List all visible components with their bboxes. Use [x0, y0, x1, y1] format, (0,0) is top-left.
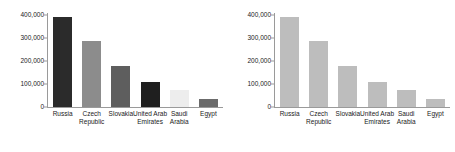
plot-area-left: 0100,000200,000300,000400,000 RussiaCzec… [0, 0, 227, 152]
bar[interactable] [309, 41, 328, 107]
y-tick-mark [271, 38, 274, 39]
bars-container-left [48, 15, 223, 107]
y-tick-mark [44, 15, 47, 16]
y-tick-mark [271, 61, 274, 62]
y-tick-label: 0 [229, 104, 271, 111]
bar-slot [136, 15, 165, 107]
bar-slot [77, 15, 106, 107]
y-axis-left: 0100,000200,000300,000400,000 [2, 0, 44, 152]
y-tick-mark [44, 107, 47, 108]
bar[interactable] [82, 41, 101, 107]
y-tick-mark [44, 84, 47, 85]
y-tick-label: 200,000 [229, 58, 271, 65]
bars-container-right [275, 15, 450, 107]
y-axis-right: 0100,000200,000300,000400,000 [229, 0, 271, 152]
bar[interactable] [397, 90, 416, 107]
bar[interactable] [111, 66, 130, 107]
x-axis-right-labels: RussiaCzech RepublicSlovakiaUnited Arab … [275, 110, 450, 152]
bar[interactable] [199, 99, 218, 107]
y-tick-label: 300,000 [229, 35, 271, 42]
bar[interactable] [141, 82, 160, 107]
y-tick-mark [271, 84, 274, 85]
bar[interactable] [338, 66, 357, 107]
x-tick-label: Egypt [191, 110, 226, 118]
y-tick-mark [44, 38, 47, 39]
bar[interactable] [53, 17, 72, 107]
bar-slot [333, 15, 362, 107]
bar-slot [363, 15, 392, 107]
bar-slot [48, 15, 77, 107]
x-axis-line-left [47, 107, 223, 108]
x-axis-left-labels: RussiaCzech RepublicSlovakiaUnited Arab … [48, 110, 223, 152]
y-tick-mark [44, 61, 47, 62]
y-tick-label: 400,000 [229, 12, 271, 19]
y-tick-label: 400,000 [2, 12, 44, 19]
bar[interactable] [170, 90, 189, 107]
bar[interactable] [280, 17, 299, 107]
chart-panel-right: 0100,000200,000300,000400,000 RussiaCzec… [227, 0, 454, 152]
y-tick-label: 100,000 [229, 81, 271, 88]
bar-slot [106, 15, 135, 107]
y-tick-label: 200,000 [2, 58, 44, 65]
plot-area-right: 0100,000200,000300,000400,000 RussiaCzec… [227, 0, 454, 152]
bar[interactable] [426, 99, 445, 107]
bar-slot [194, 15, 223, 107]
y-tick-mark [271, 15, 274, 16]
y-tick-label: 100,000 [2, 81, 44, 88]
chart-panel-left: 0100,000200,000300,000400,000 RussiaCzec… [0, 0, 227, 152]
bar-slot [275, 15, 304, 107]
bar-slot [421, 15, 450, 107]
bar-slot [392, 15, 421, 107]
bar-slot [165, 15, 194, 107]
bar-slot [304, 15, 333, 107]
y-tick-label: 0 [2, 104, 44, 111]
bar-chart-figure: 0100,000200,000300,000400,000 RussiaCzec… [0, 0, 455, 152]
y-tick-mark [271, 107, 274, 108]
bar[interactable] [368, 82, 387, 107]
x-axis-line-right [274, 107, 450, 108]
x-tick-label: Egypt [418, 110, 453, 118]
y-tick-label: 300,000 [2, 35, 44, 42]
